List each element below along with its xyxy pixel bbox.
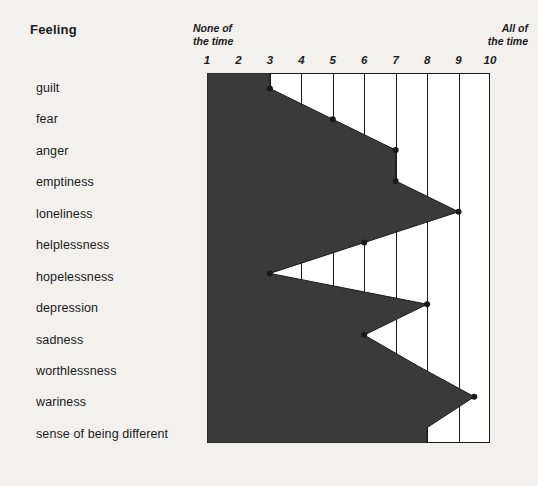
feeling-label: helplessness	[36, 230, 201, 261]
axis-tick-3: 3	[267, 54, 273, 66]
data-point-marker	[330, 116, 336, 122]
axis-tick-1: 1	[204, 54, 210, 66]
page-title: Feeling	[30, 22, 77, 37]
chart-page: Feeling guiltfearangeremptinesslonelines…	[0, 0, 538, 486]
data-point-marker	[456, 209, 462, 215]
data-point-marker	[361, 332, 367, 338]
feeling-label: guilt	[36, 73, 201, 104]
data-point-marker	[361, 240, 367, 246]
feeling-area-chart	[207, 73, 490, 443]
axis-tick-6: 6	[361, 54, 367, 66]
axis-high-caption: All of the time	[466, 22, 528, 47]
data-point-marker	[393, 178, 399, 184]
feeling-label: worthlessness	[36, 356, 201, 387]
series-area-path	[207, 73, 474, 443]
data-point-marker	[471, 394, 477, 400]
axis-tick-2: 2	[235, 54, 241, 66]
axis-tick-4: 4	[298, 54, 304, 66]
axis-tick-10: 10	[484, 54, 497, 66]
data-point-marker	[424, 301, 430, 307]
axis-tick-8: 8	[424, 54, 430, 66]
feeling-label-list: guiltfearangeremptinesslonelinesshelples…	[36, 73, 201, 450]
feeling-label: depression	[36, 293, 201, 324]
axis-tick-9: 9	[455, 54, 461, 66]
chart-series-area	[207, 73, 490, 443]
data-point-marker	[267, 85, 273, 91]
axis-tick-5: 5	[330, 54, 336, 66]
data-point-marker	[393, 147, 399, 153]
axis-tick-labels: 12345678910	[207, 54, 490, 70]
feeling-label: sadness	[36, 325, 201, 356]
axis-low-caption: None of the time	[193, 22, 233, 47]
axis-tick-7: 7	[392, 54, 398, 66]
feeling-label: wariness	[36, 387, 201, 418]
feeling-label: loneliness	[36, 199, 201, 230]
data-point-marker	[267, 270, 273, 276]
feeling-label: hopelessness	[36, 262, 201, 293]
feeling-label: fear	[36, 104, 201, 135]
feeling-label: anger	[36, 136, 201, 167]
feeling-label: sense of being different	[36, 419, 201, 450]
feeling-label: emptiness	[36, 167, 201, 198]
